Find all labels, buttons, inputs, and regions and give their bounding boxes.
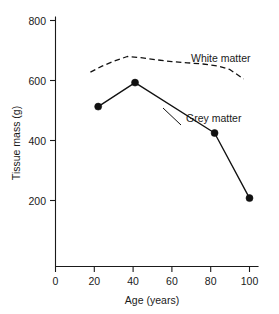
x-tick-label-100: 100 [241,275,259,287]
grey-matter-markers [95,79,253,202]
data-point-marker [211,130,218,137]
grey-matter-label: Grey matter [186,112,242,124]
chart-figure: 800 600 400 200 0 20 40 60 80 100 Tissue… [0,0,279,314]
x-tick-label-0: 0 [53,275,59,287]
x-tick-label-20: 20 [88,275,100,287]
y-tick-labels: 800 600 400 200 [28,15,46,207]
x-tick-labels: 0 20 40 60 80 100 [53,275,259,287]
x-axis-title: Age (years) [125,294,179,306]
x-tick-label-60: 60 [166,275,178,287]
y-tick-label-600: 600 [28,75,46,87]
y-axis-title: Tissue mass (g) [10,106,22,180]
data-point-marker [246,195,253,202]
y-tick-marks [50,21,56,201]
tissue-mass-line-chart: 800 600 400 200 0 20 40 60 80 100 Tissue… [0,0,279,314]
data-point-marker [95,103,102,110]
x-tick-label-40: 40 [127,275,139,287]
series-group [90,57,253,202]
grey-matter-line [98,83,249,199]
y-tick-label-400: 400 [28,135,46,147]
y-tick-label-800: 800 [28,15,46,27]
y-tick-label-200: 200 [28,195,46,207]
white-matter-label: White matter [191,52,251,64]
x-tick-label-80: 80 [205,275,217,287]
x-tick-marks [56,267,250,273]
series-annotations: White matter Grey matter [163,52,251,125]
data-point-marker [132,79,139,86]
